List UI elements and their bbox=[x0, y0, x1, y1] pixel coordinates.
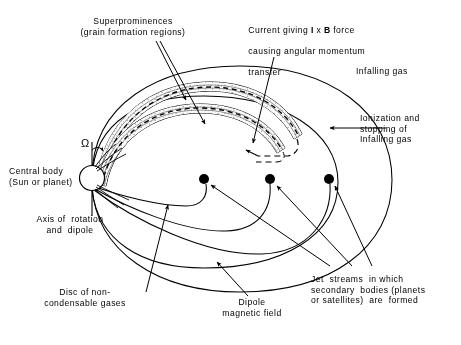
label-jet-streams: Jet streams in which secondary bodies (p… bbox=[311, 274, 425, 306]
label-infalling-gas: Infalling gas bbox=[356, 66, 408, 77]
secondary-body bbox=[265, 174, 275, 184]
current-force-cross: x bbox=[314, 25, 324, 35]
label-current-ixb-force: Current giving I x B force causing angul… bbox=[237, 14, 447, 88]
label-axis-of-rotation: Axis of rotation and dipole bbox=[8, 214, 132, 235]
current-force-text-1: Current giving bbox=[248, 25, 311, 35]
secondary-body bbox=[199, 174, 209, 184]
label-central-body: Central body (Sun or planet) bbox=[9, 166, 73, 187]
label-omega-symbol: Ω bbox=[81, 138, 90, 149]
leader-jet-1 bbox=[211, 185, 330, 266]
label-dipole-magnetic-field: Dipole magnetic field bbox=[196, 297, 308, 318]
current-force-line-3: transfer bbox=[248, 67, 281, 77]
label-superprominences: Superprominences (grain formation region… bbox=[60, 16, 206, 37]
label-ionization-stopping: Ionization and stopping of Infalling gas bbox=[360, 113, 420, 145]
secondary-body bbox=[324, 174, 334, 184]
figure-canvas: Superprominences (grain formation region… bbox=[0, 0, 461, 345]
label-disc-of-gases: Disc of non- condensable gases bbox=[22, 287, 148, 308]
current-force-line-2: causing angular momentum bbox=[248, 46, 365, 56]
current-force-text-2: force bbox=[330, 25, 354, 35]
